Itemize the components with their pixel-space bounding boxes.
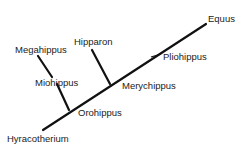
label-hipparon: Hipparon — [74, 36, 113, 47]
label-merychippus: Merychippus — [122, 80, 176, 91]
label-hyracotherium: Hyracotherium — [7, 133, 69, 144]
label-miohippus: Miohippus — [35, 77, 79, 88]
hipparon-branch — [92, 50, 110, 84]
label-pliohippus: Pliohippus — [163, 51, 207, 62]
label-megahippus: Megahippus — [15, 44, 67, 55]
cladogram: Equus Pliohippus Hipparon Megahippus Mio… — [0, 0, 244, 149]
label-orohippus: Orohippus — [78, 107, 122, 118]
label-equus: Equus — [208, 13, 235, 24]
megahippus-branch — [38, 56, 52, 77]
